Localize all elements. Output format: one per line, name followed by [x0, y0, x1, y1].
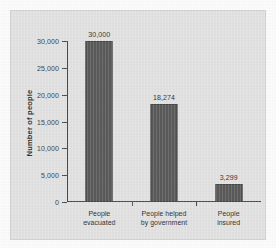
- bar-chart-figure: Number of people 05,00010,00015,00020,00…: [0, 0, 276, 248]
- bar[interactable]: [86, 41, 113, 202]
- bar-value-label: 30,000: [88, 31, 110, 38]
- y-axis-tick: [62, 202, 67, 203]
- bar-value-label: 18,274: [153, 94, 175, 101]
- bar-group[interactable]: 30,000: [67, 41, 132, 202]
- category-label-line: People: [88, 210, 110, 217]
- bar[interactable]: [215, 184, 242, 202]
- category-label: Peopleevacuated: [83, 209, 115, 227]
- y-axis-tick-label: 20,000: [37, 91, 59, 98]
- y-axis-tick-label: 15,000: [37, 118, 59, 125]
- plot-area: 05,00010,00015,00020,00025,00030,000 30,…: [67, 41, 261, 202]
- y-axis-tick-label: 10,000: [37, 145, 59, 152]
- bar[interactable]: [150, 104, 177, 202]
- category-label-line: People: [218, 210, 240, 217]
- chart-panel: Number of people 05,00010,00015,00020,00…: [10, 10, 266, 240]
- y-axis-tick-label: 0: [55, 199, 59, 206]
- category-label-line: People helped: [142, 210, 187, 217]
- y-axis-tick-label: 25,000: [37, 64, 59, 71]
- bar-value-label: 3,299: [220, 174, 238, 181]
- category-label-line: evacuated: [83, 219, 115, 226]
- category-label: People helpedby government: [141, 209, 187, 227]
- x-axis-separator-tick: [196, 202, 197, 206]
- y-axis-tick-label: 30,000: [37, 38, 59, 45]
- bar-group[interactable]: 3,299: [196, 41, 261, 202]
- bar-group[interactable]: 18,274: [132, 41, 197, 202]
- x-axis-separator-tick: [132, 202, 133, 206]
- y-axis-title: Number of people: [25, 90, 34, 157]
- category-label-line: insured: [217, 219, 240, 226]
- category-label-line: by government: [141, 219, 187, 226]
- category-label: Peopleinsured: [217, 209, 240, 227]
- y-axis-tick-label: 5,000: [41, 172, 59, 179]
